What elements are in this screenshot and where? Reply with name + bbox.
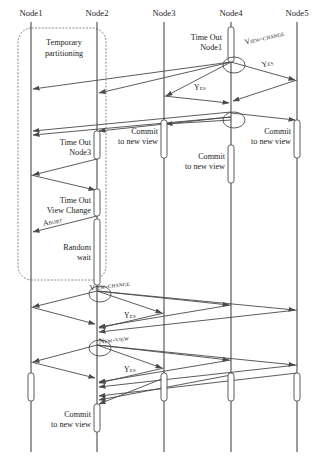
message-arrow-m-yes3-n4-n2 (99, 305, 231, 327)
message-arrow-m-yes4-n1-n2 (31, 362, 95, 378)
note-commit-n3-line2: to new view (118, 137, 158, 146)
note-commit-n5: Committo new view (251, 127, 292, 146)
note-timeout-viewchange-line1: Time Out (60, 196, 92, 205)
activation-bar-act-n4-final (228, 373, 234, 401)
message-arrow-m-nv2-n2-n1 (33, 345, 97, 362)
message-label-lbl-yes-1: Yes (261, 58, 275, 69)
lifeline-header-n2: Node2 (86, 8, 109, 18)
note-timeout-viewchange-line2: View Change (47, 206, 92, 215)
message-arrow-m-to3-n1-n2 (31, 175, 95, 190)
note-timeout-viewchange: Time OutView Change (47, 196, 92, 215)
message-arrow-m-yes-n5-n4 (233, 80, 297, 101)
message-label-lbl-yes-4: Yes (124, 365, 136, 374)
message-label-lbl-yes-2: Yes (194, 83, 206, 92)
message-arrow-m-final-n3-n2 (99, 378, 164, 404)
partition-label-line1: Temporary (46, 38, 83, 47)
lifeline-header-n3: Node3 (153, 8, 176, 18)
message-arrow-m-yes3-n1-n2 (31, 307, 95, 324)
note-commit-n4-line2: to new view (185, 162, 225, 171)
note-commit-n3-line1: Commit (131, 127, 159, 136)
activation-bar-act-n4-commit (228, 145, 234, 183)
message-arrow-m-nv2-n2-n5 (97, 345, 295, 365)
note-commit-n3: Committo new view (118, 127, 159, 146)
lifeline-header-n5: Node5 (286, 8, 309, 18)
lifeline-header-n4: Node4 (220, 8, 244, 18)
note-commit-bottom-line1: Commit (64, 410, 92, 419)
note-commit-n4-line1: Commit (198, 152, 226, 161)
activation-bar-act-n2-timeout3 (94, 131, 100, 159)
activation-bar-act-n5-commit (294, 120, 300, 158)
lifeline-header-n1: Node1 (20, 8, 43, 18)
activation-bar-act-n3-final (161, 373, 167, 401)
note-timeout-node1: Time OutNode1 (191, 33, 223, 52)
activation-bar-act-n3-commit (161, 120, 167, 158)
message-arrow-m-vc2-n2-n1 (33, 291, 97, 307)
partition-label-line2: partitioning (45, 49, 83, 58)
activation-bar-act-n1-final (28, 373, 34, 401)
note-commit-n5-line2: to new view (251, 137, 291, 146)
message-label-lbl-yes-3: Yes (124, 311, 136, 320)
sequence-diagram-canvas: Temporarypartitioning Node1Node2Node3Nod… (0, 0, 322, 457)
note-random-wait: Randomwait (63, 243, 91, 262)
note-timeout-node3-line1: Time Out (60, 138, 92, 147)
note-timeout-node3: Time OutNode3 (60, 138, 92, 157)
activation-bar-act-n5-final (294, 373, 300, 401)
note-commit-n5-line1: Commit (264, 127, 292, 136)
message-label-lbl-new-view: New-view (98, 333, 129, 346)
sequence-diagram-root: Temporarypartitioning Node1Node2Node3Nod… (0, 0, 322, 457)
note-random-wait-line2: wait (77, 253, 92, 262)
note-timeout-node3-line2: Node3 (69, 148, 91, 157)
activation-bar-act-n2-random (94, 219, 100, 285)
message-arrow-m-to3-n2-n1 (33, 159, 97, 175)
note-timeout-node1-line1: Time Out (191, 33, 223, 42)
message-label-lbl-abort: Abort (42, 215, 63, 228)
note-commit-n4: Committo new view (185, 152, 226, 171)
message-label-lbl-view-change-1: View-change (244, 29, 285, 47)
lifeline-header-layer: Node1Node2Node3Node4Node5 (20, 8, 309, 18)
note-random-wait-line1: Random (63, 243, 91, 252)
activation-bar-act-n2-commit-bot (94, 404, 100, 432)
message-arrow-m-yes-n3-n4 (164, 96, 229, 103)
note-commit-bottom: Committo new view (51, 410, 92, 429)
note-commit-bottom-line2: to new view (51, 420, 91, 429)
message-arrow-m-vc2-n2-n5 (97, 291, 295, 310)
activation-bar-act-n2-timeoutvc (94, 189, 100, 216)
note-timeout-node1-line2: Node1 (200, 43, 222, 52)
